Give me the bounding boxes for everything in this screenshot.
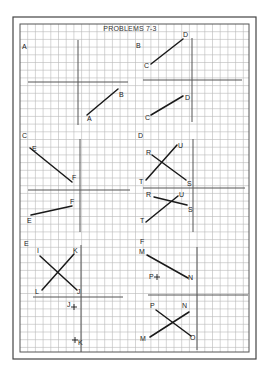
point-label: C	[145, 114, 150, 121]
point-label: R	[146, 191, 151, 198]
sheet-title: PROBLEMS 7-3	[103, 25, 156, 32]
point-label: N	[188, 274, 193, 281]
point-label: N	[182, 302, 187, 309]
panel-label: C	[22, 132, 27, 139]
problem-sheet: PROBLEMS 7-3 AABBCDCDCEFFEDRUTSRUSTEIKLJ…	[0, 0, 271, 374]
point-label: U	[178, 142, 183, 149]
panel-label: F	[140, 238, 144, 245]
marker-label: P	[149, 273, 154, 280]
marker-label: J	[67, 301, 71, 308]
point-label: I	[37, 247, 39, 254]
panel-label: B	[136, 42, 141, 49]
point-label: D	[185, 94, 190, 101]
point-label: C	[144, 62, 149, 69]
point-label: S	[188, 206, 193, 213]
point-label: B	[119, 91, 124, 98]
point-label: F	[72, 174, 76, 181]
point-label: A	[87, 115, 92, 122]
panel-label: D	[138, 132, 143, 139]
point-label: L	[35, 288, 39, 295]
point-label: K	[73, 247, 78, 254]
panel-label: E	[24, 240, 29, 247]
point-label: S	[187, 180, 192, 187]
point-label: M	[139, 248, 145, 255]
point-label: P	[150, 302, 155, 309]
point-label: O	[190, 334, 196, 341]
point-label: D	[183, 31, 188, 38]
point-label: M	[140, 335, 146, 342]
point-label: F	[70, 198, 74, 205]
point-label: T	[139, 178, 144, 185]
point-label: T	[140, 217, 145, 224]
point-label: E	[32, 145, 37, 152]
point-label: U	[179, 191, 184, 198]
point-label: J	[77, 288, 81, 295]
point-label: R	[146, 149, 151, 156]
point-label: E	[27, 217, 32, 224]
marker-label: K	[78, 339, 83, 346]
panel-label: A	[22, 43, 27, 50]
